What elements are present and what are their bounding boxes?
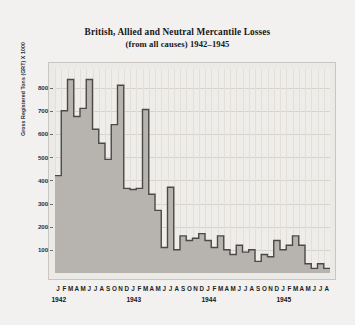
plot-area: [55, 69, 330, 273]
y-tick-label-400: 400: [28, 177, 48, 184]
y-tick-label-100: 100: [28, 246, 48, 253]
y-tick-label-500: 500: [28, 154, 48, 161]
y-tick-label-600: 600: [28, 130, 48, 137]
y-tick-label-200: 200: [28, 223, 48, 230]
y-tick-mark-700: [50, 111, 53, 112]
y-tick-mark-100: [50, 250, 53, 251]
x-axis-year-labels: 1942194319441945: [55, 296, 330, 306]
x-tick-label-1945-08: A: [322, 285, 332, 292]
y-tick-mark-400: [50, 180, 53, 181]
series-area-chart: [55, 69, 330, 273]
x-axis-year-1942: 1942: [44, 296, 74, 303]
chart-subtitle: (from all causes) 1942–1945: [0, 38, 355, 50]
page-title: British, Allied and Neutral Mercantile L…: [0, 26, 355, 38]
y-tick-mark-300: [50, 204, 53, 205]
chart-title-block: British, Allied and Neutral Mercantile L…: [0, 26, 355, 50]
y-tick-label-800: 800: [28, 84, 48, 91]
y-axis-title: Gross Registered Tons (GRT) X 1000: [20, 14, 26, 164]
chart-page: British, Allied and Neutral Mercantile L…: [0, 0, 355, 325]
y-tick-label-700: 700: [28, 107, 48, 114]
y-tick-mark-200: [50, 227, 53, 228]
x-axis-year-1943: 1943: [119, 296, 149, 303]
x-axis-month-labels: JFMAMJJASONDJFMAMJJASONDJFMAMJJASONDJFMA…: [55, 285, 330, 295]
y-tick-mark-500: [50, 157, 53, 158]
y-tick-mark-800: [50, 88, 53, 89]
x-axis-year-1945: 1945: [269, 296, 299, 303]
x-axis-year-1944: 1944: [194, 296, 224, 303]
y-tick-mark-600: [50, 134, 53, 135]
series-area-fill: [55, 79, 330, 273]
y-tick-label-300: 300: [28, 200, 48, 207]
